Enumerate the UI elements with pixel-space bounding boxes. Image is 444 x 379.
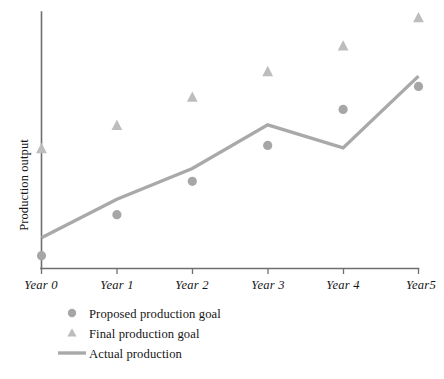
x-tick-label-year-3: Year 3 — [251, 278, 284, 292]
legend-label-actual: Actual production — [89, 347, 183, 361]
x-tick-label-year-0: Year 0 — [24, 278, 58, 292]
final-goal-point — [338, 40, 349, 50]
final-goal-point — [413, 12, 424, 22]
proposed-goal-point — [112, 210, 121, 219]
proposed-goal-point — [414, 82, 423, 91]
x-tick-label-year-1: Year 1 — [100, 278, 133, 292]
chart-legend: Proposed production goal Final productio… — [58, 307, 221, 361]
legend-triangle-icon — [67, 328, 76, 336]
x-tick-label-year-2: Year 2 — [175, 278, 209, 292]
x-tick-label-year-5: Year5 — [406, 278, 436, 292]
final-goal-point — [112, 120, 123, 130]
final-goal-point — [187, 91, 198, 101]
final-goal-point — [262, 66, 273, 76]
chart-container: Production output Year 0 Year 1 Year 2 Y… — [0, 0, 444, 379]
legend-circle-icon — [68, 309, 76, 317]
proposed-production-goal-series — [37, 82, 423, 260]
legend-label-final: Final production goal — [89, 327, 200, 341]
actual-production-line-series — [42, 76, 419, 238]
legend-label-proposed: Proposed production goal — [89, 307, 221, 321]
proposed-goal-point — [263, 141, 272, 150]
y-axis-label: Production output — [17, 139, 31, 231]
axes-group — [41, 12, 419, 274]
proposed-goal-point — [37, 251, 46, 260]
final-production-goal-series — [36, 12, 424, 153]
production-output-chart: Production output Year 0 Year 1 Year 2 Y… — [0, 0, 444, 379]
proposed-goal-point — [339, 105, 348, 114]
actual-production-line — [42, 76, 419, 238]
x-tick-labels: Year 0 Year 1 Year 2 Year 3 Year 4 Year5 — [24, 278, 436, 292]
final-goal-point — [36, 143, 47, 153]
x-tick-label-year-4: Year 4 — [326, 278, 360, 292]
proposed-goal-point — [188, 177, 197, 186]
